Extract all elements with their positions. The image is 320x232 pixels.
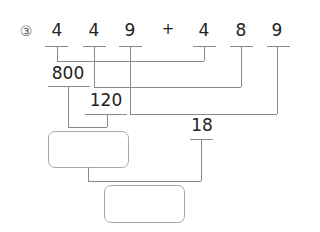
digit-underline [267, 46, 290, 47]
tens-connector-left [94, 46, 95, 87]
problem-number-label: ③ [20, 24, 33, 38]
operand1-hundreds-digit: 4 [52, 22, 63, 39]
ones-partial-sum: 18 [191, 117, 213, 134]
operand2-hundreds-digit: 4 [199, 22, 210, 39]
box-to-final-connector [88, 167, 89, 181]
final-connector-bottom [88, 181, 201, 182]
operand2-tens-digit: 8 [236, 22, 247, 39]
sum-connector-bottom [68, 127, 107, 128]
ones-connector-left [130, 46, 131, 114]
ones-to-final-connector [201, 139, 202, 181]
tens-to-box-connector [107, 114, 108, 127]
hundreds-to-box-connector [68, 86, 69, 127]
intermediate-answer-box[interactable] [48, 131, 129, 168]
hundreds-connector-right [204, 46, 205, 61]
tens-partial-sum: 120 [90, 92, 122, 109]
tens-sum-underline [85, 114, 127, 115]
ones-connector-right [277, 46, 278, 114]
operand1-tens-digit: 4 [89, 22, 100, 39]
operand1-ones-digit: 9 [125, 22, 136, 39]
hundreds-connector-left [57, 46, 58, 61]
tens-connector-right [241, 46, 242, 87]
plus-operator: + [162, 22, 175, 37]
hundreds-partial-sum: 800 [52, 65, 84, 82]
operand2-ones-digit: 9 [272, 22, 283, 39]
hundreds-sum-underline [48, 86, 90, 87]
final-answer-box[interactable] [104, 185, 185, 223]
tens-connector-bottom [94, 87, 241, 88]
